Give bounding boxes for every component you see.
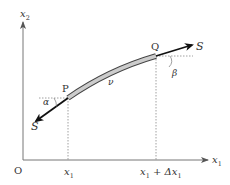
force-label-left: S: [31, 120, 39, 133]
angle-beta-label: β: [171, 68, 177, 78]
tick-label-x1: x1: [64, 166, 74, 180]
force-arrow-right: [156, 45, 192, 56]
force-arrow-left: [36, 98, 68, 121]
x1-axis-label: x1: [212, 154, 222, 168]
point-p-label: P: [62, 83, 69, 94]
point-q-label: Q: [151, 41, 159, 52]
angle-beta-arc: [169, 56, 172, 67]
tick-label-x1-plus-dx1: x1 + Δx1: [140, 166, 182, 180]
x2-axis-label: x2: [20, 8, 30, 22]
origin-label: O: [14, 165, 22, 176]
angle-alpha-label: α: [43, 97, 49, 107]
string-element-diagram: x2 x1 O P Q x1 x1 + Δx1 S S α β ν: [0, 0, 230, 185]
force-label-right: S: [196, 40, 204, 53]
segment-label-nu: ν: [108, 77, 114, 87]
angle-alpha-arc: [54, 98, 57, 107]
